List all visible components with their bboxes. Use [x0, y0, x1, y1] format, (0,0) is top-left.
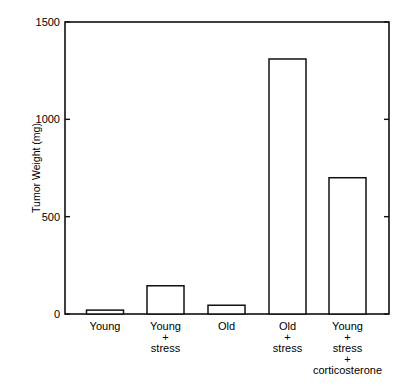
bar-1	[147, 286, 184, 314]
bar-3	[269, 59, 306, 314]
y-tick-label: 0	[54, 308, 60, 320]
bars	[87, 59, 367, 314]
y-axis-label: Tumor Weight (mg)	[30, 123, 42, 213]
y-tick-label: 1500	[36, 16, 60, 28]
bar-0	[87, 310, 124, 314]
x-tick-label: stress	[273, 342, 303, 354]
bar-2	[208, 305, 245, 314]
x-tick-label: Old	[218, 320, 235, 332]
x-axis-labels: YoungYoung+stressOldOld+stressYoung+stre…	[90, 320, 382, 376]
x-tick-label: stress	[151, 342, 181, 354]
bar-4	[329, 178, 366, 314]
bar-chart: 050010001500 Tumor Weight (mg) YoungYoun…	[0, 0, 409, 389]
x-tick-label: corticosterone	[313, 364, 382, 376]
x-tick-label: Young	[90, 320, 121, 332]
y-tick-label: 500	[42, 211, 60, 223]
